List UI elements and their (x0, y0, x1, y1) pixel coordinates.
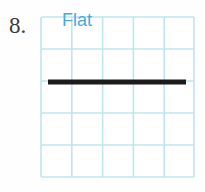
answer-text-flat: Flat (62, 10, 92, 30)
graph-grid (40, 16, 195, 178)
exercise-number-label: 8. (9, 14, 26, 37)
plotted-flat-line (40, 16, 195, 178)
exercise-figure: 8. Fla (0, 0, 205, 192)
